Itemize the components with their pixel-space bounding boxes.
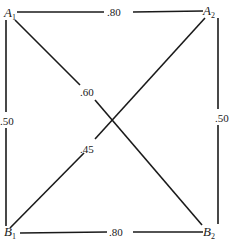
edge-a1-a2: .80 [17,6,203,18]
edge-weight-a2-b1: .45 [80,143,94,155]
edge-a2-b1: .45 [10,18,205,228]
edge-weight-a1-a2: .80 [107,6,121,18]
edge-weight-a1-b2: .60 [80,86,94,98]
edge-weight-a2-b2: .50 [215,112,229,124]
node-b1: B1 [4,224,16,239]
edge-weight-b1-b2: .80 [109,226,123,238]
edge-weight-a1-b1: .50 [0,115,14,127]
edge-a1-b1: .50 [0,20,14,226]
node-a2: A2 [202,3,215,20]
node-b2: B2 [203,224,215,239]
bipartite-graph-diagram: .80 .80 .50 .50 .60 .45 A1 A2 B1 B2 [0,0,233,239]
node-a1: A1 [3,5,16,22]
edge-b1-b2: .80 [20,226,203,238]
edge-a2-b2: .50 [215,18,229,224]
